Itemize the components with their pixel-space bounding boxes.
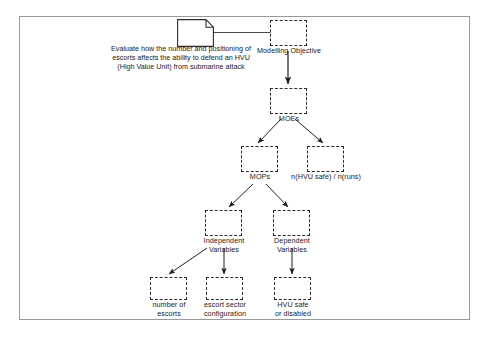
node-hvu-safe-or-disabled-label: HVU safe or disabled: [260, 301, 326, 318]
source-document-text: Evaluate how the number and positioning …: [106, 44, 256, 71]
node-dependent-variables[interactable]: [273, 210, 310, 236]
source-document-icon: [177, 19, 217, 47]
node-moes-label: MOEs: [264, 115, 314, 124]
node-escort-sector-configuration[interactable]: [206, 277, 243, 300]
node-modelling-objective-label: Modelling Objective: [245, 47, 333, 56]
node-modelling-objective[interactable]: [270, 20, 307, 46]
node-n-hvu-safe[interactable]: [307, 146, 344, 172]
node-escort-sector-configuration-label: escort sector configuration: [191, 301, 259, 318]
node-moes[interactable]: [270, 88, 307, 114]
node-hvu-safe-or-disabled[interactable]: [274, 277, 311, 300]
node-dependent-variables-label: Dependent Variables: [260, 237, 324, 254]
node-number-of-escorts[interactable]: [150, 277, 187, 300]
node-n-hvu-safe-label: n(HVU safe) / n(runs): [281, 173, 371, 182]
diagram-canvas: Evaluate how the number and positioning …: [0, 0, 482, 343]
node-mops-label: MOPs: [235, 173, 285, 182]
node-independent-variables-label: Independent Variables: [192, 237, 256, 254]
node-independent-variables[interactable]: [205, 210, 242, 236]
node-mops[interactable]: [241, 146, 278, 172]
